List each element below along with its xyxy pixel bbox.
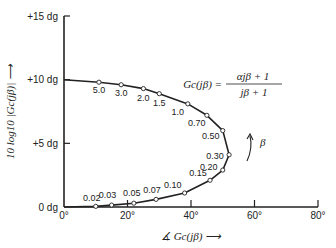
data-point: [186, 102, 190, 106]
data-point: [183, 191, 187, 195]
beta-label-arrow: β: [259, 136, 266, 148]
x-tick-label: 20°: [120, 210, 135, 221]
beta-label: 0.50: [202, 131, 220, 141]
beta-label: 3.0: [115, 88, 128, 98]
data-point: [110, 203, 114, 207]
y-tick-label: +5 dg: [33, 138, 58, 149]
y-tick-label: +15 dg: [27, 11, 58, 22]
data-point: [97, 80, 101, 84]
data-point: [205, 113, 209, 117]
data-point: [221, 129, 225, 133]
data-point: [154, 197, 158, 201]
beta-label: 5.0: [93, 85, 106, 95]
beta-label: 0.70: [188, 118, 206, 128]
annotations: Gc(jβ) =αjβ + 1jβ + 1β: [183, 70, 282, 161]
x-tick-label: 40°: [183, 210, 198, 221]
beta-label: 2.0: [137, 93, 150, 103]
data-point: [94, 204, 98, 208]
axes: 0 dg+5 dg+10 dg+15 dg0°20°40°60°80°∡ Gc(…: [4, 11, 326, 244]
data-points: 5.03.02.01.51.00.700.500.300.200.150.100…: [83, 80, 231, 208]
x-tick-label: 0°: [59, 210, 69, 221]
x-tick-label: 60°: [247, 210, 262, 221]
data-point: [227, 153, 231, 157]
data-point: [119, 83, 123, 87]
y-tick-label: +10 dg: [27, 74, 58, 85]
beta-label: 0.15: [189, 168, 207, 178]
beta-label: 1.0: [172, 107, 185, 117]
beta-label: 0.05: [123, 188, 141, 198]
x-axis-title: ∡ Gc(jβ) ⟶: [161, 230, 222, 243]
data-point: [141, 86, 145, 90]
y-tick-label: 0 dg: [39, 202, 58, 213]
beta-label: 1.5: [153, 98, 166, 108]
beta-label: 0.03: [99, 190, 117, 200]
y-axis-title: 10 log10 |Gc(jβ)| ⟶: [4, 63, 17, 159]
data-point: [208, 178, 212, 182]
nichols-chart: 0 dg+5 dg+10 dg+15 dg0°20°40°60°80°∡ Gc(…: [0, 0, 336, 248]
formula-lhs: Gc(jβ) =: [183, 78, 222, 91]
formula-denominator: jβ + 1: [239, 86, 268, 98]
beta-label: 0.02: [83, 193, 101, 203]
formula-numerator: αjβ + 1: [237, 70, 270, 82]
beta-label: 0.10: [164, 180, 182, 190]
beta-label: 0.07: [143, 185, 161, 195]
data-point: [221, 168, 225, 172]
data-point: [157, 92, 161, 96]
x-tick-label: 80°: [310, 210, 325, 221]
data-point: [132, 201, 136, 205]
beta-label: 0.30: [206, 151, 224, 161]
